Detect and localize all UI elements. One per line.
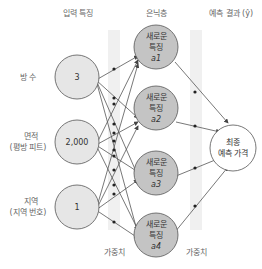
hidden-a3-line1: 새로운 — [136, 157, 176, 168]
input-value-3: 1 — [57, 202, 97, 213]
input-label-3: 지역 — [8, 196, 54, 207]
hidden-a1-line1: 새로운 — [136, 31, 176, 42]
input-sublabel-2: (평방 피트) — [2, 142, 54, 153]
input-value-2: 2,000 — [57, 137, 97, 148]
output-line2: 예측 가격 — [210, 148, 256, 159]
input-sublabel-3: (지역 번호) — [2, 207, 54, 218]
input-label-2: 면적 — [8, 131, 54, 142]
weight-band-2 — [190, 30, 202, 230]
hidden-a2-line1: 새로운 — [136, 92, 176, 103]
hidden-a2-name: a2 — [136, 114, 176, 125]
hidden-a1-line2: 특징 — [136, 42, 176, 53]
header-hidden: 은닉층 — [126, 8, 186, 19]
hidden-a4-line1: 새로운 — [136, 219, 176, 230]
input-label-1: 방 수 — [8, 72, 48, 83]
hidden-a4-name: a4 — [136, 241, 176, 252]
hidden-a3-line2: 특징 — [136, 168, 176, 179]
hidden-a3-name: a3 — [136, 179, 176, 190]
output-line1: 최종 — [210, 137, 256, 148]
weights-label-2: 가중치 — [176, 247, 216, 258]
hidden-a1-name: a1 — [136, 53, 176, 64]
hidden-a2-line2: 특징 — [136, 103, 176, 114]
hidden-a4-line2: 특징 — [136, 230, 176, 241]
input-value-1: 3 — [57, 72, 97, 83]
weights-label-1: 가중치 — [94, 247, 134, 258]
header-output: 예측 결과 (ŷ) — [200, 8, 262, 19]
header-input: 입력 특징 — [48, 8, 108, 19]
